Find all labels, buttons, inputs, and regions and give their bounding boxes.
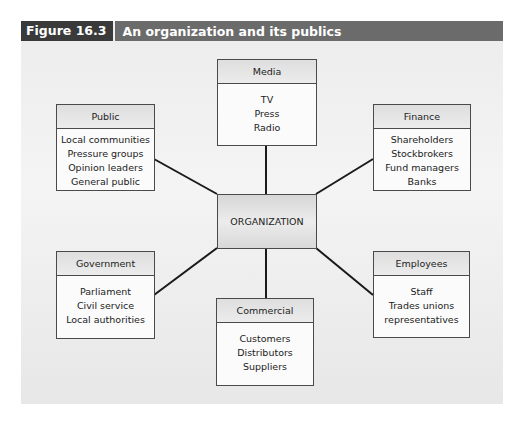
media-node: Media TV Press Radio <box>217 59 317 146</box>
organization-label: ORGANIZATION <box>230 216 303 227</box>
public-item: General public <box>57 175 154 189</box>
government-node: Government Parliament Civil service Loca… <box>56 251 155 339</box>
connector-public <box>154 159 217 194</box>
media-item: Radio <box>218 121 316 135</box>
public-title: Public <box>57 105 154 129</box>
finance-item: Shareholders <box>374 133 470 147</box>
employees-node: Employees Staff Trades unions representa… <box>373 251 470 338</box>
finance-item: Banks <box>374 175 470 189</box>
finance-title: Finance <box>374 105 470 129</box>
government-item: Parliament <box>57 285 154 299</box>
employees-item: Staff <box>374 285 469 299</box>
employees-item: Trades unions <box>374 299 469 313</box>
commercial-item: Distributors <box>217 346 313 360</box>
public-node: Public Local communities Pressure groups… <box>56 104 155 191</box>
government-item: Local authorities <box>57 313 154 327</box>
media-item: TV <box>218 93 316 107</box>
connector-employees <box>316 248 373 295</box>
connector-government <box>154 248 217 295</box>
finance-item: Fund managers <box>374 161 470 175</box>
commercial-item: Customers <box>217 332 313 346</box>
commercial-title: Commercial <box>217 299 313 323</box>
commercial-node: Commercial Customers Distributors Suppli… <box>216 298 314 386</box>
media-item: Press <box>218 107 316 121</box>
public-item: Opinion leaders <box>57 161 154 175</box>
government-title: Government <box>57 252 154 276</box>
media-title: Media <box>218 60 316 84</box>
connector-finance <box>316 159 373 194</box>
organization-node: ORGANIZATION <box>217 194 317 249</box>
public-item: Local communities <box>57 133 154 147</box>
employees-item: representatives <box>374 313 469 327</box>
employees-title: Employees <box>374 252 469 276</box>
finance-node: Finance Shareholders Stockbrokers Fund m… <box>373 104 471 191</box>
public-item: Pressure groups <box>57 147 154 161</box>
finance-item: Stockbrokers <box>374 147 470 161</box>
government-item: Civil service <box>57 299 154 313</box>
commercial-item: Suppliers <box>217 360 313 374</box>
